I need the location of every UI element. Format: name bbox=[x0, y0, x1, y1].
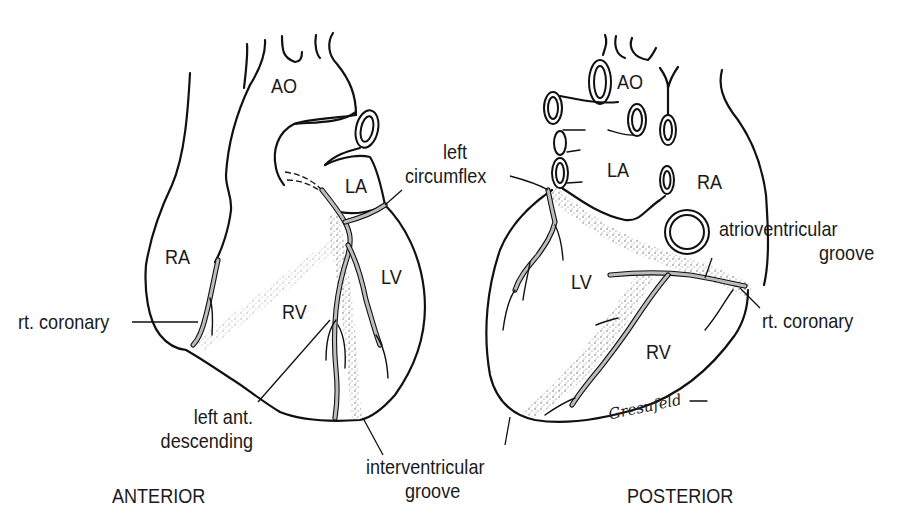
ivc-branch bbox=[660, 67, 678, 120]
aorta-left-wall bbox=[215, 85, 250, 262]
diagram-artwork bbox=[0, 0, 898, 529]
rca-twig bbox=[705, 290, 733, 330]
interventricular-groove-leader-posterior bbox=[505, 417, 510, 445]
pulm-vessel-upper bbox=[560, 96, 618, 103]
vessel-top bbox=[603, 35, 606, 55]
label-left-circumflex-2: circumflex bbox=[405, 164, 486, 187]
label-anterior-right-atrium: RA bbox=[165, 245, 190, 268]
right-atrium-outline bbox=[146, 73, 190, 350]
label-anterior-right-ventricle: RV bbox=[282, 300, 307, 323]
vessel-top bbox=[631, 38, 656, 60]
heart-coronary-diagram: AO LA RA RV LV rt. coronary left ant. de… bbox=[0, 0, 898, 529]
label-posterior-right-ventricle: RV bbox=[646, 340, 671, 363]
label-posterior-rt-coronary: rt. coronary bbox=[762, 309, 853, 332]
label-posterior-right-atrium: RA bbox=[697, 170, 722, 193]
label-left-ant-descending-1: left ant. bbox=[156, 405, 253, 428]
label-posterior-left-atrium: LA bbox=[607, 158, 629, 181]
aortic-branch bbox=[282, 36, 302, 62]
svc-line bbox=[244, 44, 247, 88]
label-interventricular-groove-1: interventricular bbox=[366, 455, 484, 478]
pulm-vessel-lower bbox=[563, 130, 635, 135]
right-atrium-outline bbox=[721, 70, 768, 285]
label-anterior-rt-coronary: rt. coronary bbox=[18, 310, 109, 333]
label-left-ant-descending-2: descending bbox=[156, 429, 253, 452]
dashed-circumflex-hidden bbox=[285, 172, 322, 190]
pulmonary-vein-inner bbox=[548, 97, 558, 119]
pulmonary-artery-inner bbox=[632, 109, 642, 131]
ivc-inner bbox=[670, 215, 704, 249]
caption-anterior: ANTERIOR bbox=[112, 484, 205, 507]
pulmonary-trunk bbox=[275, 115, 356, 185]
interventricular-groove-leader bbox=[363, 418, 383, 455]
caption-posterior: POSTERIOR bbox=[627, 484, 733, 507]
circumflex-leader-anterior bbox=[385, 190, 402, 205]
label-anterior-aorta: AO bbox=[271, 74, 297, 97]
aorta-right-wall bbox=[329, 33, 356, 115]
posterior-heart bbox=[486, 35, 768, 445]
label-left-circumflex-1: left bbox=[443, 140, 467, 163]
pv-stubs bbox=[567, 150, 582, 183]
pulmonary-vein-opening bbox=[554, 131, 566, 155]
circumflex-twig bbox=[555, 225, 563, 260]
label-atrioventricular-groove-2: groove bbox=[819, 241, 874, 264]
dashed-circumflex-hidden bbox=[287, 180, 322, 192]
aorta-opening-inner bbox=[594, 66, 606, 98]
label-posterior-left-ventricle: LV bbox=[571, 270, 592, 293]
pulmonary-vein-inner bbox=[556, 163, 564, 183]
pulmonary-vein-inner bbox=[664, 171, 671, 189]
pulmonary-vein-inner bbox=[664, 120, 672, 140]
circumflex-leader bbox=[510, 176, 548, 190]
vessel-top bbox=[615, 36, 625, 58]
circumflex-twig bbox=[503, 290, 515, 330]
label-atrioventricular-groove-1: atrioventricular bbox=[719, 217, 837, 240]
label-posterior-aorta: AO bbox=[617, 70, 643, 93]
label-anterior-left-ventricle: LV bbox=[381, 265, 402, 288]
aortic-branch bbox=[315, 35, 320, 58]
vessel-line bbox=[250, 40, 265, 85]
lad-leader bbox=[258, 320, 330, 402]
label-anterior-left-atrium: LA bbox=[345, 174, 367, 197]
label-interventricular-groove-2: groove bbox=[405, 479, 460, 502]
